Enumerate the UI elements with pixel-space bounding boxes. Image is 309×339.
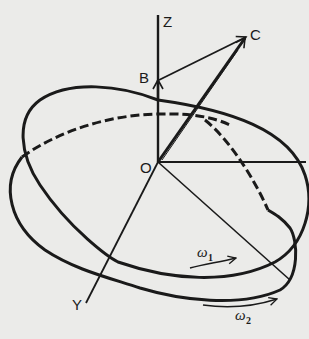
omega-2-symbol: ω: [235, 307, 246, 323]
diagram-canvas: Z C B O Y ω 1 ω 2: [0, 0, 309, 339]
point-c-label: C: [250, 26, 261, 43]
origin-label: O: [140, 159, 152, 176]
omega-2-subscript: 2: [246, 315, 251, 326]
orbit-ellipse-1: [23, 87, 309, 278]
y-axis-label: Y: [72, 296, 82, 313]
bc-vector: [159, 37, 246, 80]
rotation-diagram: Z C B O Y ω 1 ω 2: [0, 0, 309, 339]
omega-1-subscript: 1: [208, 252, 213, 263]
z-axis-label: Z: [163, 13, 172, 30]
point-b-label: B: [139, 69, 149, 86]
projection-line: [158, 162, 290, 280]
omega-1-symbol: ω: [197, 244, 208, 260]
oc-vector: [158, 38, 245, 162]
